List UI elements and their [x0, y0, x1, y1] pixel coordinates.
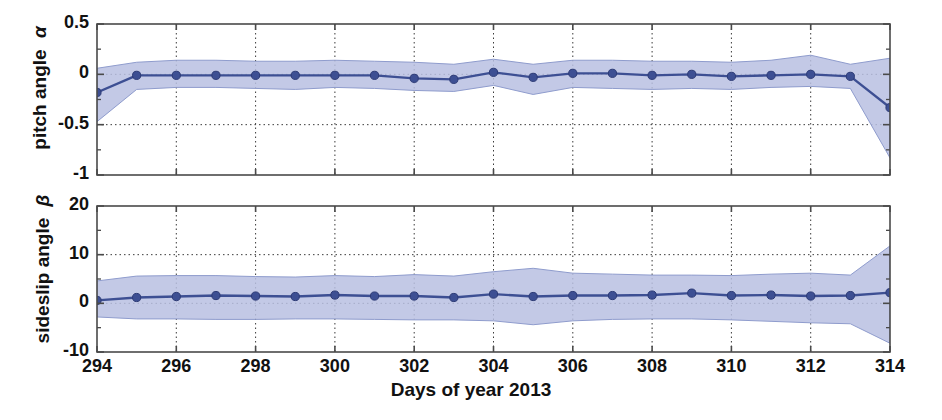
data-point-marker — [450, 75, 458, 83]
data-point-marker — [133, 293, 141, 301]
data-point-marker — [767, 71, 775, 79]
data-point-marker — [212, 71, 220, 79]
data-point-marker — [529, 73, 537, 81]
data-point-marker — [331, 291, 339, 299]
data-point-marker — [212, 291, 220, 299]
data-point-marker — [370, 71, 378, 79]
x-tick-label: 304 — [464, 356, 524, 377]
data-point-marker — [608, 291, 616, 299]
data-point-marker — [569, 69, 577, 77]
data-point-marker — [767, 291, 775, 299]
data-point-marker — [569, 291, 577, 299]
data-point-marker — [688, 70, 696, 78]
sideslip-angle-plot — [93, 206, 894, 352]
data-point-marker — [291, 292, 299, 300]
x-tick-label: 298 — [226, 356, 286, 377]
pitch-angle-plot — [93, 24, 894, 175]
data-point-marker — [291, 71, 299, 79]
y-tick-label: -0.5 — [31, 113, 89, 134]
data-point-marker — [846, 291, 854, 299]
y-axis-label-bottom-text: sideslip angle — [32, 218, 53, 344]
data-point-marker — [807, 70, 815, 78]
y-tick-label: 0 — [31, 62, 89, 83]
y-tick-label: 20 — [31, 194, 89, 215]
x-tick-label: 312 — [781, 356, 841, 377]
data-point-marker — [172, 292, 180, 300]
data-point-marker — [648, 291, 656, 299]
x-tick-label: 294 — [67, 356, 127, 377]
x-axis-label: Days of year 2013 — [0, 379, 942, 401]
data-point-marker — [489, 290, 497, 298]
data-point-marker — [370, 292, 378, 300]
x-tick-label: 296 — [146, 356, 206, 377]
y-tick-label: 0.5 — [31, 12, 89, 33]
data-point-marker — [450, 293, 458, 301]
data-point-marker — [489, 68, 497, 76]
data-point-marker — [410, 74, 418, 82]
y-tick-label: -1 — [31, 163, 89, 184]
data-point-marker — [252, 71, 260, 79]
x-tick-label: 308 — [622, 356, 682, 377]
data-point-marker — [133, 71, 141, 79]
data-point-marker — [648, 71, 656, 79]
y-tick-label: 0 — [31, 291, 89, 312]
data-point-marker — [807, 292, 815, 300]
data-point-marker — [727, 291, 735, 299]
data-point-marker — [688, 289, 696, 297]
data-point-marker — [846, 72, 854, 80]
data-point-marker — [331, 71, 339, 79]
x-tick-label: 300 — [305, 356, 365, 377]
x-tick-label: 314 — [860, 356, 920, 377]
y-tick-label: 10 — [31, 243, 89, 264]
data-point-marker — [727, 72, 735, 80]
x-tick-label: 310 — [701, 356, 761, 377]
data-point-marker — [608, 69, 616, 77]
figure-panel: pitch angle α sideslip angle β Days of y… — [0, 0, 942, 420]
data-point-marker — [410, 292, 418, 300]
x-tick-label: 306 — [543, 356, 603, 377]
data-point-marker — [172, 71, 180, 79]
x-tick-label: 302 — [384, 356, 444, 377]
data-point-marker — [529, 292, 537, 300]
data-point-marker — [252, 292, 260, 300]
